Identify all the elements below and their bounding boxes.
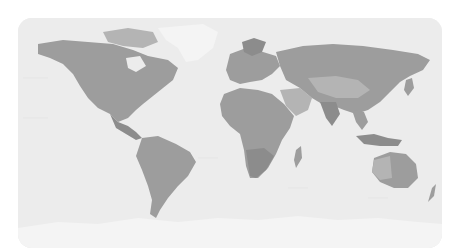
world-map[interactable] — [18, 18, 442, 248]
world-map-svg — [18, 18, 442, 248]
